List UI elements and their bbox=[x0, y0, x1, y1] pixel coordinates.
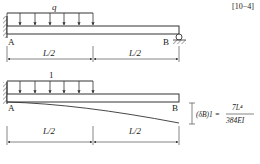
fixed-wall-support bbox=[3, 82, 7, 104]
load-arrows bbox=[7, 13, 93, 26]
formula-denominator: 384EI bbox=[225, 116, 245, 125]
fixed-wall-support bbox=[3, 16, 7, 38]
support-label-a: A bbox=[8, 103, 15, 113]
top-beam-figure: q A B L/2 L/2 bbox=[3, 2, 186, 62]
clipped-header-text: [10−4] bbox=[232, 2, 254, 11]
dimension-right: L/2 bbox=[128, 48, 142, 58]
deflection-curve bbox=[7, 102, 179, 123]
deflection-label: (δB)1 = bbox=[196, 110, 220, 119]
support-label-a: A bbox=[8, 37, 15, 47]
roller-support bbox=[176, 34, 182, 40]
beam bbox=[7, 94, 179, 102]
dimension-right: L/2 bbox=[128, 126, 142, 136]
bottom-beam-figure: 1 A B (δB)1 = 7L⁴ 384EI L/2 L/2 bbox=[3, 70, 254, 145]
beam bbox=[7, 26, 179, 34]
support-label-b: B bbox=[163, 37, 169, 47]
load-label-unit: 1 bbox=[49, 70, 54, 80]
beam-diagram: [10−4] q A B L/2 L/2 bbox=[0, 0, 260, 164]
load-label-q: q bbox=[52, 2, 57, 12]
load-arrows bbox=[7, 81, 93, 94]
formula-numerator: 7L⁴ bbox=[232, 103, 243, 112]
dimension-left: L/2 bbox=[42, 126, 56, 136]
dimension-left: L/2 bbox=[42, 48, 56, 58]
support-label-b: B bbox=[172, 103, 178, 113]
